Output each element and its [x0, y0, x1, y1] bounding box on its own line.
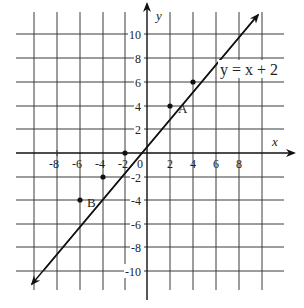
svg-text:4: 4	[135, 100, 141, 114]
x-tick-labels: -8 -6 -4 -2 2 4 6 8	[49, 157, 242, 171]
svg-text:8: 8	[236, 157, 242, 171]
svg-text:10: 10	[129, 28, 141, 42]
coordinate-plane-diagram: y x 0 -8 -6 -4 -2 2 4 6 8 10 8 6 4	[0, 0, 304, 308]
svg-text:-6: -6	[72, 157, 82, 171]
svg-text:-2: -2	[118, 157, 128, 171]
point-4-6	[190, 79, 195, 84]
svg-text:-2: -2	[131, 171, 141, 185]
svg-text:4: 4	[190, 157, 196, 171]
svg-text:-4: -4	[95, 157, 105, 171]
point-b-label: B	[87, 195, 96, 210]
svg-text:-10: -10	[125, 265, 141, 279]
point-neg2-0	[122, 150, 127, 155]
point-neg4-neg2	[100, 174, 105, 179]
svg-text:2: 2	[167, 157, 173, 171]
y-axis-label: y	[154, 8, 162, 23]
x-axis-label: x	[271, 134, 278, 149]
point-a-label: A	[178, 101, 188, 116]
svg-text:8: 8	[135, 52, 141, 66]
svg-text:6: 6	[135, 76, 141, 90]
svg-text:-4: -4	[131, 194, 141, 208]
equation-label: y = x + 2	[220, 61, 278, 79]
point-b	[77, 197, 82, 202]
svg-text:-8: -8	[49, 157, 59, 171]
svg-text:-6: -6	[131, 218, 141, 232]
svg-text:6: 6	[213, 157, 219, 171]
svg-text:2: 2	[135, 123, 141, 137]
grid-lines	[16, 12, 284, 290]
graph-canvas: y x 0 -8 -6 -4 -2 2 4 6 8 10 8 6 4	[0, 0, 304, 308]
svg-text:-8: -8	[131, 241, 141, 255]
function-line-arrow	[44, 15, 258, 270]
point-a	[167, 103, 172, 108]
